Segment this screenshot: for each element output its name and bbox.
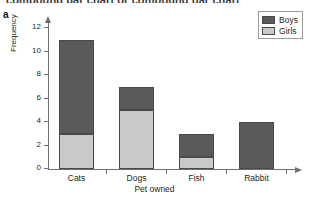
- y-axis-tick: 12: [44, 27, 48, 28]
- y-axis-tick: 6: [44, 98, 48, 99]
- y-axis-tick: 2: [44, 145, 48, 146]
- stacked-bar: Rabbit: [239, 122, 274, 169]
- stacked-bar: Cats: [59, 40, 94, 169]
- y-axis-title: Frequency: [9, 14, 19, 52]
- y-axis-tick: 10: [44, 51, 48, 52]
- stacked-bar: Dogs: [119, 87, 154, 169]
- legend-swatch-girls: [262, 27, 275, 35]
- y-axis-tick-label: 0: [37, 162, 41, 173]
- bar-segment-boys: [179, 134, 214, 157]
- legend-swatch-boys: [262, 16, 275, 24]
- x-axis-line: [48, 169, 296, 170]
- y-axis-tick-label: 6: [37, 92, 41, 103]
- y-axis-tick: 0: [44, 168, 48, 169]
- panel-letter: a: [3, 9, 9, 21]
- y-axis-tick-label: 10: [32, 45, 41, 56]
- clipped-top-heading: compound bar chart or compound bar chart: [6, 0, 306, 3]
- bar-segment-girls: [119, 110, 154, 169]
- y-axis-tick-label: 4: [37, 115, 41, 126]
- legend-label: Girls: [279, 26, 296, 36]
- chart-legend: BoysGirls: [258, 11, 303, 39]
- y-axis-arrowhead: [45, 16, 51, 23]
- bar-segment-girls: [179, 157, 214, 169]
- x-axis-arrowhead: [295, 167, 302, 173]
- x-axis-category-label: Rabbit: [222, 173, 292, 184]
- y-axis-tick: 4: [44, 121, 48, 122]
- bar-segment-boys: [119, 87, 154, 110]
- stacked-bar: Fish: [179, 134, 214, 169]
- y-axis-tick-label: 12: [32, 21, 41, 32]
- y-axis-tick-label: 2: [37, 139, 41, 150]
- y-axis-tick-label: 8: [37, 68, 41, 79]
- bar-segment-girls: [59, 134, 94, 169]
- y-axis-tick: 8: [44, 74, 48, 75]
- bar-segment-boys: [59, 40, 94, 134]
- chart-plot-area: 024681012 CatsDogsFishRabbit: [48, 18, 300, 170]
- bar-segment-boys: [239, 122, 274, 169]
- x-axis-title: Pet owned: [0, 184, 309, 195]
- legend-item: Girls: [262, 25, 298, 36]
- legend-label: Boys: [279, 15, 298, 25]
- legend-item: Boys: [262, 14, 298, 25]
- y-axis-line: [48, 22, 49, 170]
